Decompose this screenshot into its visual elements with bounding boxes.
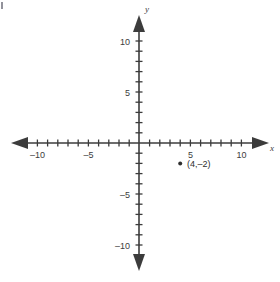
x-tick-label-neg10: –10 <box>30 150 45 160</box>
x-tick-label-neg5: –5 <box>83 150 93 160</box>
x-axis-group <box>11 137 269 149</box>
y-tick-label-neg5: –5 <box>120 190 130 200</box>
x-axis-left-arrowhead <box>11 137 28 149</box>
coordinate-plane-figure: –10 –5 5 10 10 5 –5 –10 x y (4,–2) <box>0 0 280 282</box>
data-point-marker <box>178 161 182 165</box>
y-tick-label-neg10: –10 <box>115 241 130 251</box>
x-tick-label-10: 10 <box>236 150 246 160</box>
data-point-label: (4,–2) <box>187 159 211 169</box>
y-tick-label-5: 5 <box>125 88 130 98</box>
y-axis-up-arrowhead <box>133 15 145 32</box>
y-axis-label: y <box>144 4 149 14</box>
coordinate-plane-canvas: –10 –5 5 10 10 5 –5 –10 x y (4,–2) <box>0 0 280 282</box>
x-axis-label: x <box>269 143 274 153</box>
y-tick-label-10: 10 <box>120 37 130 47</box>
y-axis-down-arrowhead <box>133 254 145 271</box>
x-axis-right-arrowhead <box>252 137 269 149</box>
